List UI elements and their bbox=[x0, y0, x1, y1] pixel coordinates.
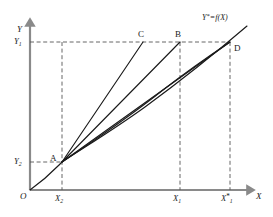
y-axis-label: Y bbox=[17, 25, 22, 34]
x-tick-label-x1: X1 bbox=[173, 194, 181, 204]
point-label-b: B bbox=[175, 30, 181, 39]
origin-label: O bbox=[20, 192, 27, 201]
ray-a-to-b bbox=[62, 42, 180, 162]
x-tick-label-x2: X2 bbox=[55, 194, 63, 204]
plot-curves bbox=[30, 26, 247, 190]
y1-subscript: 1 bbox=[19, 41, 22, 47]
x1-subscript: 1 bbox=[178, 198, 181, 204]
point-label-c: C bbox=[138, 30, 144, 39]
x2-subscript: 2 bbox=[60, 198, 63, 204]
y2-subscript: 2 bbox=[19, 161, 22, 167]
ray-a-to-d bbox=[62, 42, 230, 162]
figure-canvas bbox=[0, 0, 273, 217]
production-function-figure: Y X O Y1 Y2 X2 X1 X*1 A B C D Y*=f(X) bbox=[0, 0, 273, 217]
x1star-subscript: 1 bbox=[230, 198, 233, 204]
x-tick-label-x1-star: X*1 bbox=[221, 194, 233, 205]
curve-function-label: Y*=f(X) bbox=[202, 13, 228, 22]
curve-label-rest: =f(X) bbox=[210, 13, 228, 22]
y-tick-label-y1: Y1 bbox=[14, 37, 22, 47]
point-label-d: D bbox=[234, 44, 241, 53]
ray-a-to-c bbox=[62, 42, 143, 162]
x-axis-label: X bbox=[256, 192, 262, 201]
point-label-a: A bbox=[50, 154, 57, 163]
y-tick-label-y2: Y2 bbox=[14, 157, 22, 167]
